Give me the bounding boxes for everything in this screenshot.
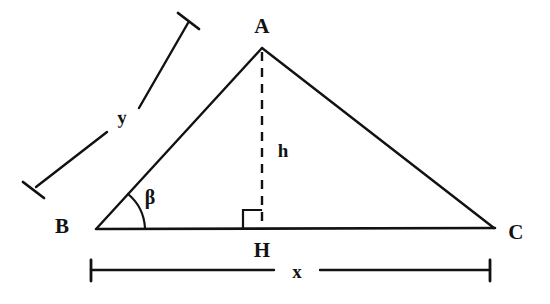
triangle-side-ab: [97, 48, 262, 228]
triangle-side-ac: [262, 48, 494, 228]
angle-label-beta: β: [145, 187, 156, 207]
dimension-line-y-upper-segment: [139, 23, 188, 108]
dimension-tick-y-end-icon: [178, 13, 199, 29]
measure-label-h: h: [278, 141, 289, 160]
geometry-diagram: A B C H h y x β: [0, 0, 550, 304]
dimension-line-y-lower-segment: [36, 132, 107, 187]
vertex-label-h: H: [254, 240, 271, 261]
triangle-base-bc: [96, 228, 495, 229]
measure-label-x: x: [292, 262, 302, 281]
vertex-label-c: C: [508, 222, 523, 243]
dimension-line-x: [91, 260, 490, 281]
measure-label-y: y: [117, 107, 127, 126]
dimension-line-y: [23, 13, 199, 198]
vertex-label-b: B: [55, 216, 69, 237]
diagram-canvas: [0, 0, 550, 304]
vertex-label-a: A: [254, 16, 269, 37]
angle-arc-beta-icon: [128, 194, 145, 228]
right-angle-square-icon: [243, 210, 261, 227]
